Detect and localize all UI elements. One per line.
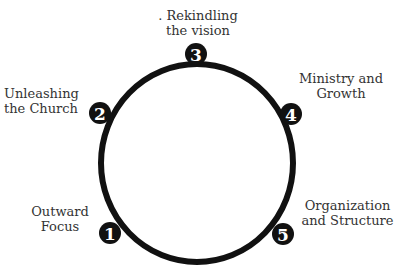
cycle-ring: [101, 64, 293, 262]
step-badge-4: 4: [280, 103, 302, 125]
step-label-4: Ministry and Growth: [286, 71, 396, 101]
step-label-5-line2: and Structure: [298, 213, 397, 228]
step-label-4-line1: Ministry and: [286, 71, 396, 86]
step-label-1-line2: Focus: [30, 219, 90, 234]
step-label-3-line2: the vision: [150, 23, 246, 38]
step-label-5-line1: Organization: [298, 198, 397, 213]
step-label-3: . Rekindling the vision: [150, 8, 246, 38]
step-badge-5: 5: [272, 223, 294, 245]
svg-text:3: 3: [190, 45, 202, 65]
step-badge-2: 2: [89, 102, 111, 124]
svg-text:1: 1: [104, 224, 116, 244]
step-badge-1: 1: [99, 222, 121, 244]
svg-text:5: 5: [277, 225, 289, 245]
step-label-1-line1: Outward: [30, 204, 90, 219]
step-label-4-line2: Growth: [286, 86, 396, 101]
step-label-2-line2: the Church: [4, 101, 84, 116]
step-label-5: Organization and Structure: [298, 198, 397, 228]
step-label-1: Outward Focus: [30, 204, 90, 234]
step-label-3-line1: . Rekindling: [150, 8, 246, 23]
cycle-diagram: 3 2 4 1 5: [0, 0, 397, 276]
step-badge-3: 3: [185, 43, 207, 65]
svg-text:4: 4: [285, 105, 297, 125]
step-label-2-line1: Unleashing: [4, 86, 84, 101]
svg-text:2: 2: [94, 104, 106, 124]
step-label-2: Unleashing the Church: [4, 86, 84, 116]
